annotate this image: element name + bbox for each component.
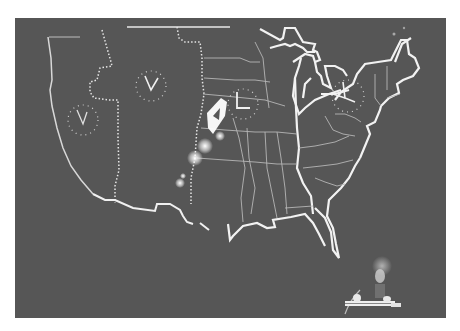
us-map [15,18,446,318]
central-eastern-boundary [297,128,313,214]
florida [315,158,360,258]
pacific-mountain-boundary [90,30,119,203]
photograph [15,18,446,318]
northern-border [49,27,230,37]
southern-border [93,194,193,224]
clock-pacific [68,105,98,135]
clock-eastern [332,80,364,112]
clock-central [228,89,258,119]
great-lakes [260,28,349,114]
performer-at-keyboard [345,256,401,314]
clock-mountain [136,71,166,101]
light-glow [175,98,227,188]
